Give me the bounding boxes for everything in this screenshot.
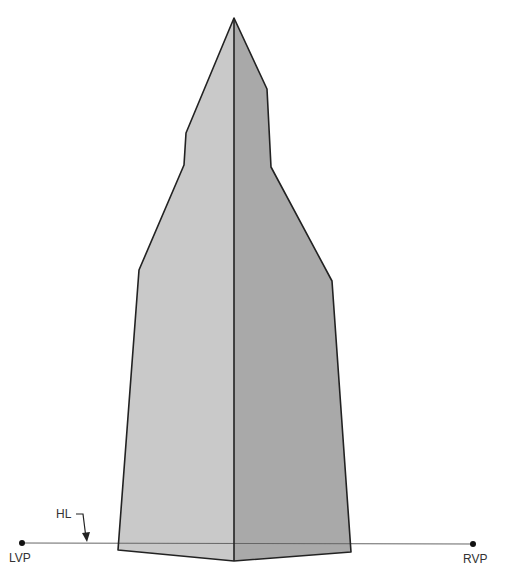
spire-right-face bbox=[234, 18, 351, 561]
lvp-label: LVP bbox=[9, 551, 31, 565]
hl-label: HL bbox=[56, 507, 71, 521]
rvp-dot bbox=[470, 541, 476, 547]
hl-arrowhead-icon bbox=[82, 532, 90, 542]
horizon-line bbox=[22, 543, 473, 544]
perspective-diagram bbox=[0, 0, 505, 578]
lvp-dot bbox=[19, 540, 25, 546]
rvp-label: RVP bbox=[463, 552, 487, 566]
spire-left-face bbox=[118, 18, 234, 561]
